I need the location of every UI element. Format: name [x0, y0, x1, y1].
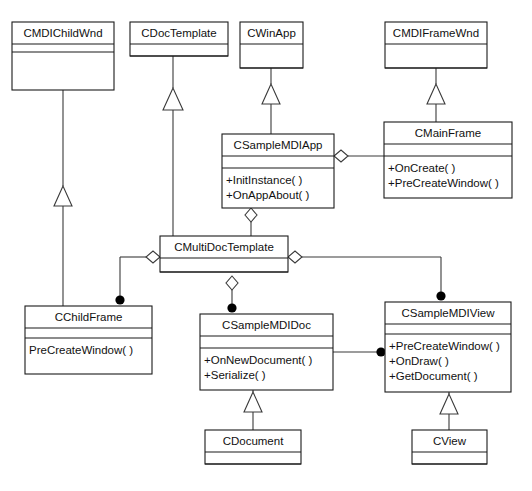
class-method-label: +OnCreate( ) [388, 162, 456, 174]
class-name-label: CSampleMDIView [401, 307, 495, 319]
class-name-label: CMainFrame [415, 127, 481, 139]
class-method-label: +PreCreateWindow( ) [388, 177, 499, 189]
class-method-label: +Serialize( ) [204, 369, 266, 381]
class-name-label: CSampleMDIApp [234, 139, 323, 151]
class-name-label: CView [433, 435, 467, 447]
class-box-cview[interactable]: CView [412, 430, 487, 464]
aggregation-cmultidoctemplate-cchildframe [115, 251, 160, 305]
class-name-label: CMDIChildWnd [23, 27, 102, 39]
diagram-canvas: CMDIChildWndCDocTemplateCWinAppCMDIFrame… [0, 0, 532, 491]
class-name-label: CMDIFrameWnd [393, 27, 479, 39]
class-box-cmdiframewnd[interactable]: CMDIFrameWnd [385, 22, 487, 68]
class-method-label: +InitInstance( ) [226, 174, 303, 186]
class-name-label: CDocument [223, 435, 285, 447]
class-box-cwinapp[interactable]: CWinApp [240, 22, 303, 68]
aggregation-csamplemdiapp-cmainframe [334, 150, 384, 162]
class-method-label: +OnNewDocument( ) [204, 354, 312, 366]
class-method-label: +GetDocument( ) [389, 370, 478, 382]
class-name-label: CWinApp [247, 27, 296, 39]
class-box-cmdichildwnd[interactable]: CMDIChildWnd [12, 22, 114, 90]
class-box-csamplemdidoc[interactable]: CSampleMDIDoc+OnNewDocument( )+Serialize… [200, 314, 333, 390]
class-box-cdoctemplate[interactable]: CDocTemplate [130, 22, 228, 56]
class-method-label: +OnAppAbout( ) [226, 189, 310, 201]
generalization-cview-csamplemdiview [440, 392, 458, 430]
class-method-label: +OnDraw( ) [389, 355, 449, 367]
generalization-csamplemdiapp-cwinapp [262, 68, 280, 134]
class-box-csamplemdiview[interactable]: CSampleMDIView+PreCreateWindow( )+OnDraw… [385, 302, 511, 392]
class-method-label: +PreCreateWindow( ) [389, 340, 500, 352]
aggregation-cmultidoctemplate-csamplemdiview [288, 251, 446, 301]
class-name-label: CChildFrame [55, 311, 123, 323]
uml-class-diagram: CMDIChildWndCDocTemplateCWinAppCMDIFrame… [0, 0, 532, 491]
association-csamplemdidoc-csamplemdiview [333, 347, 386, 356]
class-box-cdocument[interactable]: CDocument [205, 430, 301, 464]
class-box-csamplemdiapp[interactable]: CSampleMDIApp+InitInstance( )+OnAppAbout… [222, 134, 334, 208]
aggregation-csamplemdiapp-cmultidoctemplate [245, 208, 257, 236]
class-name-label: CSampleMDIDoc [222, 319, 311, 331]
class-name-label: CMultiDocTemplate [174, 241, 274, 253]
generalization-cdocument-csamplemdidoc [244, 390, 262, 430]
generalization-cchildframe-cmdichildwnd [54, 90, 72, 306]
class-name-label: CDocTemplate [141, 27, 216, 39]
class-method-label: PreCreateWindow( ) [29, 344, 133, 356]
generalization-cmultidoctemplate-cdoctemplate [163, 56, 183, 236]
generalization-cmainframe-cmdiframewnd [427, 68, 445, 122]
class-box-cchildframe[interactable]: CChildFramePreCreateWindow( ) [25, 306, 152, 374]
aggregation-cmultidoctemplate-csamplemdidoc [226, 276, 238, 313]
class-box-cmultidoctemplate[interactable]: CMultiDocTemplate [160, 236, 288, 272]
class-box-cmainframe[interactable]: CMainFrame+OnCreate( )+PreCreateWindow( … [384, 122, 512, 198]
